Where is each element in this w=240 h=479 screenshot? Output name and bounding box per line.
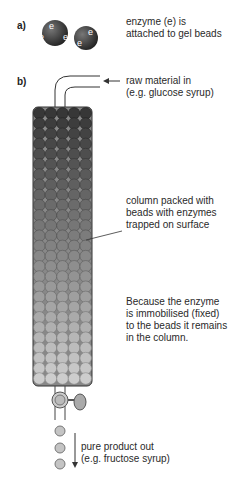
svg-text:e: e [39,32,44,42]
gel-bead-icon: e e [74,26,98,50]
packed-column [33,107,92,386]
svg-text:e: e [49,21,54,31]
input-pipe-icon [55,76,100,107]
svg-text:e: e [77,38,82,48]
arrow-down-icon [72,433,78,468]
arrow-left-icon [103,78,120,84]
svg-text:e: e [88,27,93,37]
diagram-graphics: e e e e e [0,0,240,479]
gel-bead-icon: e e e [39,20,68,46]
svg-text:e: e [63,32,68,42]
valve-icon [52,386,86,420]
product-droplets [55,426,65,469]
